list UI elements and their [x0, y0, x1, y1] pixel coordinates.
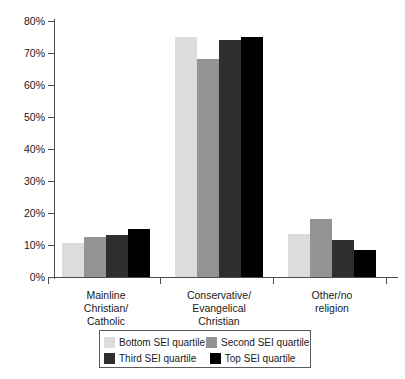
y-axis-tick — [48, 117, 55, 118]
y-axis-tick-label: 0% — [0, 272, 45, 282]
legend-row: Third SEI quartile Top SEI quartile — [104, 350, 306, 366]
y-axis-tick — [48, 213, 55, 214]
x-axis-category-label: Mainline Christian/ Catholic — [46, 289, 166, 328]
bar — [62, 243, 84, 277]
y-axis-tick — [48, 149, 55, 150]
bar — [310, 219, 332, 277]
y-axis-tick-label: 10% — [0, 240, 45, 250]
y-axis-tick-label: 20% — [0, 208, 45, 218]
x-axis-category-label: Conservative/ Evangelical Christian — [159, 289, 279, 328]
bar-chart: 80%70%60%50%40%30%20%10%0% Mainline Chri… — [0, 0, 405, 379]
bar-group — [288, 21, 376, 277]
legend-entry-top-sei-quartile: Top SEI quartile — [210, 350, 306, 366]
x-axis-category-label: Other/no religion — [272, 289, 392, 315]
x-axis-tick — [160, 278, 161, 284]
legend-swatch-icon — [104, 337, 115, 348]
legend-label: Second SEI quartile — [221, 337, 309, 348]
y-axis-tick-label: 30% — [0, 176, 45, 186]
legend-row: Bottom SEI quartile Second SEI quartile — [104, 334, 306, 350]
bar-group — [62, 21, 150, 277]
y-axis-tick — [48, 85, 55, 86]
bar — [332, 240, 354, 277]
y-axis-tick — [48, 21, 55, 22]
legend-entry-bottom-sei-quartile: Bottom SEI quartile — [104, 334, 206, 350]
bar-group — [175, 21, 263, 277]
bar — [128, 229, 150, 277]
legend-label: Third SEI quartile — [119, 353, 196, 364]
x-axis-tick — [48, 278, 49, 284]
legend-entry-second-sei-quartile: Second SEI quartile — [206, 334, 306, 350]
x-axis-tick — [386, 278, 387, 284]
y-axis-tick-label: 40% — [0, 144, 45, 154]
y-axis-tick-label: 70% — [0, 48, 45, 58]
bar — [354, 250, 376, 277]
y-axis-tick — [48, 277, 55, 278]
x-axis-line — [48, 277, 398, 278]
bar — [84, 237, 106, 277]
legend: Bottom SEI quartile Second SEI quartile … — [99, 330, 311, 368]
bar — [219, 40, 241, 277]
y-axis-tick — [48, 245, 55, 246]
legend-swatch-icon — [206, 337, 217, 348]
plot-area — [55, 21, 395, 277]
bar — [288, 234, 310, 277]
y-axis-tick — [48, 181, 55, 182]
legend-label: Bottom SEI quartile — [119, 337, 205, 348]
legend-label: Top SEI quartile — [225, 353, 296, 364]
bar — [106, 235, 128, 277]
bar — [175, 37, 197, 277]
y-axis-tick-label: 80% — [0, 16, 45, 26]
legend-swatch-icon — [104, 353, 115, 364]
bar — [241, 37, 263, 277]
bar — [197, 59, 219, 277]
legend-swatch-icon — [210, 353, 221, 364]
legend-entry-third-sei-quartile: Third SEI quartile — [104, 350, 210, 366]
y-axis-tick — [48, 53, 55, 54]
y-axis-tick-label: 50% — [0, 112, 45, 122]
y-axis-tick-label: 60% — [0, 80, 45, 90]
x-axis-tick — [273, 278, 274, 284]
